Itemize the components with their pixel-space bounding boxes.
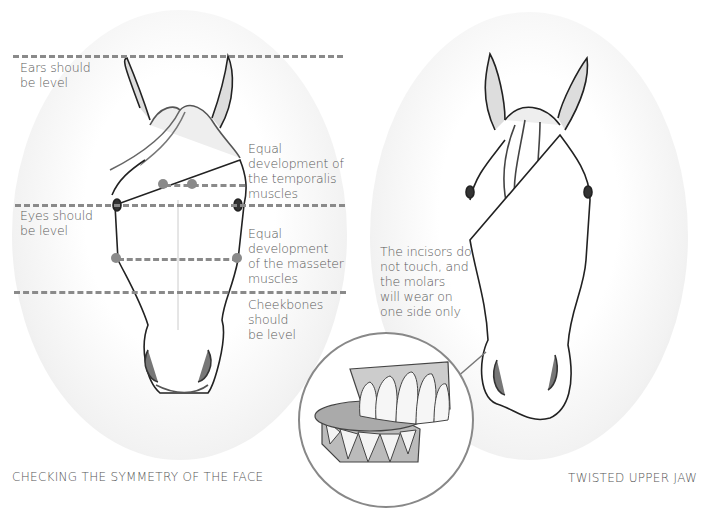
temporalis-dot-left bbox=[158, 179, 168, 189]
masseter-line bbox=[118, 258, 238, 261]
label-temporalis: Equal development of the temporalis musc… bbox=[248, 141, 344, 201]
masseter-dot-left bbox=[111, 253, 121, 263]
temporalis-dot-right bbox=[187, 179, 197, 189]
left-horse-head-icon bbox=[110, 56, 246, 393]
teeth-closeup-icon bbox=[300, 334, 472, 506]
left-caption: CHECKING THE SYMMETRY OF THE FACE bbox=[12, 470, 263, 484]
label-eyes-level: Eyes should be level bbox=[20, 208, 93, 238]
right-caption: TWISTED UPPER JAW bbox=[568, 471, 697, 485]
ears-level-line bbox=[13, 55, 343, 58]
label-masseter: Equal development of the masseter muscle… bbox=[248, 226, 344, 286]
label-cheekbones: Cheekbones should be level bbox=[248, 297, 323, 342]
label-twisted-jaw-note: The incisors do not touch, and the molar… bbox=[380, 244, 471, 319]
temporalis-line bbox=[165, 184, 245, 187]
label-ears-level: Ears should be level bbox=[20, 60, 90, 90]
eyes-level-line bbox=[15, 204, 345, 207]
cheekbones-level-line bbox=[14, 291, 346, 294]
right-horse-head-icon bbox=[466, 54, 592, 419]
teeth-inset-circle bbox=[298, 332, 474, 508]
masseter-dot-right bbox=[232, 253, 242, 263]
